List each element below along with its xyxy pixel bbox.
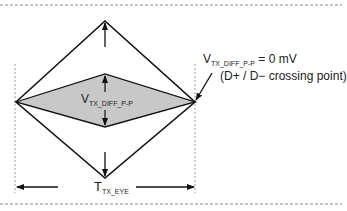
- v-diff-main: V: [81, 92, 89, 106]
- v-diff-sub: TX_DIFF_P-P: [89, 100, 133, 107]
- zero-main: V: [203, 52, 211, 66]
- eye-sub: TX_EYE: [102, 188, 129, 195]
- crossing-note-label: (D+ / D− crossing point): [220, 69, 347, 83]
- eye-width-label: TTX_EYE: [91, 179, 132, 195]
- zero-mv-label: VTX_DIFF_P-P = 0 mV: [203, 52, 297, 67]
- crossing-point-arrow: [196, 73, 212, 100]
- v-diff-pp-label: VTX_DIFF_P-P: [81, 92, 133, 107]
- zero-sub: TX_DIFF_P-P: [211, 60, 255, 67]
- eye-main: T: [94, 179, 102, 194]
- crossing-note: (D+ / D− crossing point): [220, 69, 347, 83]
- zero-value: = 0 mV: [255, 52, 297, 66]
